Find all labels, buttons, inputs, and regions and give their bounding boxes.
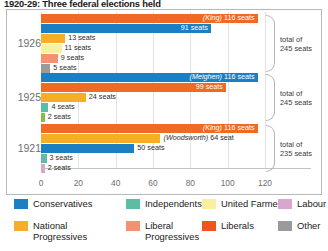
bar-labour[interactable] — [41, 164, 45, 173]
bar-value-label: 4 seats — [51, 102, 74, 112]
bar-seat-count: 116 seats — [224, 123, 255, 132]
bar-row[interactable]: 11 seats — [41, 44, 321, 53]
bar-value-label: 2 seats — [48, 112, 71, 122]
legend-item[interactable]: Liberals — [202, 220, 254, 231]
bar-row[interactable]: (King) 116 seats — [41, 14, 321, 23]
bar-row[interactable]: (King) 116 seats — [41, 124, 321, 133]
bar-independents[interactable] — [41, 154, 47, 163]
bar-row[interactable]: 24 seats — [41, 93, 321, 102]
chart-legend: ConservativesNational ProgressivesIndepe… — [6, 198, 322, 248]
bar-value-label: (King) 116 seats — [41, 123, 258, 133]
bar-row[interactable]: 4 seats — [41, 103, 321, 112]
bar-row[interactable]: 91 seats — [41, 24, 321, 33]
x-axis-tick-label: 80 — [186, 178, 195, 188]
legend-swatch — [202, 199, 216, 209]
legend-item[interactable]: Conservatives — [14, 198, 92, 209]
bar-leader-label: (Meighen) — [190, 72, 224, 81]
x-axis-tick-label: 20 — [74, 178, 83, 188]
legend-label: Liberals — [221, 220, 254, 231]
bar-value-label: 2 seats — [48, 163, 71, 173]
legend-swatch — [126, 221, 140, 231]
bar-other[interactable] — [41, 113, 45, 122]
bar-row[interactable]: 2 seats — [41, 164, 321, 173]
total-brace — [266, 74, 275, 121]
bar-value-label: (Meighen) 116 seats — [41, 72, 258, 82]
bar-row[interactable]: 9 seats — [41, 54, 321, 63]
bar-value-label: 11 seats — [65, 43, 92, 53]
bar-value-label: 3 seats — [50, 153, 73, 163]
x-axis-tick-label: 120 — [258, 178, 272, 188]
x-axis-tick-label: 40 — [111, 178, 120, 188]
plot-frame: 1926(King) 116 seats91 seats13 seats11 s… — [6, 9, 322, 195]
bar-value-label: (King) 116 seats — [41, 13, 258, 23]
bar-leader-label: (King) — [203, 13, 224, 22]
bar-value-label: (Woodsworth) 64 seat — [163, 133, 233, 143]
bar-liberal-progressives[interactable] — [41, 54, 58, 63]
x-axis-tick-label: 100 — [221, 178, 235, 188]
legend-label: Liberal Progressives — [145, 220, 199, 242]
bar-value-label: 91 seats — [41, 23, 211, 33]
legend-label: Conservatives — [33, 198, 92, 209]
bar-row[interactable]: 99 seats — [41, 83, 321, 92]
bar-row[interactable]: 2 seats — [41, 113, 321, 122]
plot-area: 1926(King) 116 seats91 seats13 seats11 s… — [7, 10, 321, 194]
total-brace — [266, 125, 275, 172]
bar-seat-count: 24 seats — [89, 92, 116, 101]
legend-item[interactable]: Labour — [278, 198, 326, 209]
bar-value-label: 99 seats — [41, 82, 226, 92]
legend-label: United Farmers — [221, 198, 286, 209]
legend-swatch — [202, 221, 216, 231]
bar-leader-label: (King) — [203, 123, 224, 132]
bar-row[interactable]: 50 seats — [41, 144, 321, 153]
legend-label: Labour — [297, 198, 326, 209]
x-axis-tick-label: 60 — [148, 178, 157, 188]
bar-row[interactable]: 3 seats — [41, 154, 321, 163]
chart-root: 1920-29: Three federal elections held 19… — [0, 0, 328, 251]
total-seats-label: total of 245 seats — [280, 35, 312, 53]
bar-independents[interactable] — [41, 103, 48, 112]
bar-seat-count: 5 seats — [53, 63, 76, 72]
bar-national-progressives[interactable] — [41, 93, 86, 102]
bar-leader-label: (Woodsworth) — [163, 133, 210, 142]
x-axis-tick-label: 0 — [39, 178, 44, 188]
year-axis-label: 1926 — [9, 37, 41, 49]
bar-seat-count: 91 seats — [181, 23, 208, 32]
bar-seat-count: 99 seats — [196, 82, 223, 91]
bar-value-label: 24 seats — [89, 92, 116, 102]
legend-swatch — [278, 199, 292, 209]
legend-item[interactable]: United Farmers — [202, 198, 286, 209]
bar-value-label: 9 seats — [61, 53, 84, 63]
legend-label: Other — [297, 220, 320, 231]
legend-item[interactable]: Other — [278, 220, 320, 231]
bar-seat-count: 116 seats — [224, 13, 255, 22]
bar-seat-count: 50 seats — [137, 143, 164, 152]
legend-item[interactable]: Independents — [126, 198, 202, 209]
bar-value-label: 13 seats — [68, 33, 95, 43]
bar-national-progressives[interactable] — [41, 34, 65, 43]
bar-united-farmers[interactable] — [41, 44, 62, 53]
total-seats-label: total of 235 seats — [280, 140, 312, 158]
year-axis-label: 1921 — [9, 142, 41, 154]
bar-conservatives[interactable] — [41, 144, 134, 153]
legend-item[interactable]: National Progressives — [14, 220, 87, 242]
bar-seat-count: 2 seats — [48, 163, 71, 172]
bar-national-progressives[interactable] — [41, 134, 160, 143]
bar-seat-count: 64 seat — [210, 133, 234, 142]
total-brace — [266, 15, 275, 72]
bar-seat-count: 13 seats — [68, 33, 95, 42]
bar-seat-count: 11 seats — [65, 43, 92, 52]
bars-container: (King) 116 seats91 seats13 seats11 seats… — [41, 14, 321, 74]
bar-row[interactable]: (Meighen) 116 seats — [41, 73, 321, 82]
bar-value-label: 50 seats — [137, 143, 164, 153]
bars-container: (Meighen) 116 seats99 seats24 seats4 sea… — [41, 73, 321, 123]
legend-label: Independents — [145, 198, 202, 209]
bar-row[interactable]: (Woodsworth) 64 seat — [41, 134, 321, 143]
legend-swatch — [14, 199, 28, 209]
legend-swatch — [14, 221, 28, 231]
total-seats-label: total of 245 seats — [280, 89, 312, 107]
legend-swatch — [278, 221, 292, 231]
bar-seat-count: 9 seats — [61, 53, 84, 62]
bar-seat-count: 2 seats — [48, 112, 71, 121]
legend-item[interactable]: Liberal Progressives — [126, 220, 199, 242]
bar-row[interactable]: 13 seats — [41, 34, 321, 43]
